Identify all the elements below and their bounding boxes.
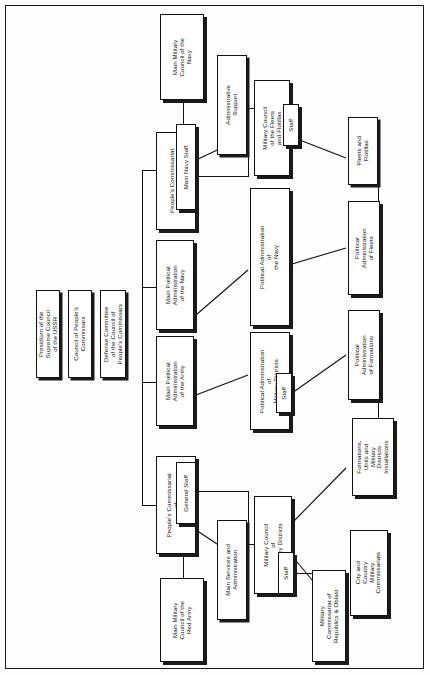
node-mc-fleets-label: Military Council of the Fleets and Floti… xyxy=(262,107,282,150)
connector-trunk-to-pc-defense xyxy=(142,505,156,506)
connector-paformations-to-formations xyxy=(378,400,379,418)
node-pa-fleets-label: Political Administration of Fleets xyxy=(354,228,374,268)
node-council-of-peoples-commissars[interactable]: Council of People's Commissars xyxy=(68,290,92,378)
node-defense-cttee-label: Defense Committee of the Council of Peop… xyxy=(103,304,123,365)
node-political-administration-fleets[interactable]: Political Administration of Fleets xyxy=(348,201,380,295)
connector-genstaff-to-mcmd-v xyxy=(248,491,249,544)
node-general-staff[interactable]: General Staff xyxy=(176,462,196,524)
node-main-navy-staff[interactable]: Main Navy Staff xyxy=(176,124,196,210)
node-staff-military-council-md[interactable]: Staff xyxy=(278,552,294,594)
node-political-administration-navy[interactable]: Political Administration of the Navy xyxy=(250,188,290,326)
node-fleets-label: Fleets and Flotillas xyxy=(356,136,370,165)
node-main-military-council-navy[interactable]: Main Military Council of the Navy xyxy=(160,14,204,100)
node-defense-committee[interactable]: Defense Committee of the Council of Peop… xyxy=(100,290,126,378)
node-formations-units-installations[interactable]: Formations, Units and Military Districts… xyxy=(352,418,394,496)
node-mpa-army-label: Main Political Administration of the Arm… xyxy=(165,361,185,401)
node-city-country-label: City and Country Military Commissariats xyxy=(355,552,382,594)
connector-trunk-to-mpa-navy xyxy=(142,287,156,288)
node-mmc-red-army-label: Main Military Council of the Red Army xyxy=(172,601,192,640)
node-main-navy-staff-label: Main Navy Staff xyxy=(183,145,190,189)
node-main-military-council-red-army[interactable]: Main Military Council of the Red Army xyxy=(160,578,204,662)
node-general-staff-label: General Staff xyxy=(183,475,190,512)
node-mmc-navy-label: Main Military Council of the Navy xyxy=(172,38,192,77)
node-political-administration-formations[interactable]: Political Administration of Formations xyxy=(348,310,380,400)
node-staff-fleets[interactable]: Staff xyxy=(283,104,299,146)
connector-trunk-to-mpa-army xyxy=(142,382,156,383)
connector-fleets-to-pafleets xyxy=(378,185,379,201)
node-main-services-and-administration[interactable]: Main Services and Administration xyxy=(217,520,247,620)
node-presidium-label: Presidium of the Supreme Council of the … xyxy=(38,310,58,358)
connector-navystaff-to-mcfleets-h xyxy=(196,176,248,177)
node-mil-comm-rep-label: Military Commissariat of Republics & Obl… xyxy=(319,589,339,643)
connector-trunk-vertical xyxy=(142,170,143,505)
node-pa-formations-label: Political Administration of Formations xyxy=(354,335,374,375)
node-staff-fleets-label: Staff xyxy=(288,119,295,132)
node-staff-political-admin-md[interactable]: Staff xyxy=(276,373,292,413)
node-fleets-and-flotillas[interactable]: Fleets and Flotillas xyxy=(348,117,378,185)
node-main-political-administration-army[interactable]: Main Political Administration of the Arm… xyxy=(156,336,194,426)
node-mpa-navy-label: Main Political Administration of the Nav… xyxy=(165,265,185,305)
node-admin-support-label: Administrative Support xyxy=(225,85,239,125)
connector-pcdefense-to-mmcredarmy xyxy=(183,554,184,580)
connector-trunk-to-pc-navy xyxy=(142,170,156,171)
node-city-country-military-commissariats[interactable]: City and Country Military Commissariats xyxy=(350,530,388,616)
node-military-commissariat-republics-oblast[interactable]: Military Commissariat of Republics & Obl… xyxy=(312,570,346,662)
node-staff-pamd-label: Staff xyxy=(281,387,288,400)
node-main-services-label: Main Services and Administration xyxy=(225,544,239,596)
node-council-cpc-label: Council of People's Commissars xyxy=(73,307,87,361)
node-administrative-support[interactable]: Administrative Support xyxy=(217,55,247,155)
node-formations-label: Formations, Units and Military Districts… xyxy=(356,440,390,473)
node-staff-mcmd-label: Staff xyxy=(283,567,290,580)
org-chart-canvas: Presidium of the Supreme Council of the … xyxy=(0,0,430,675)
node-main-political-administration-navy[interactable]: Main Political Administration of the Nav… xyxy=(156,240,194,330)
node-pa-navy-label: Political Administration of the Navy xyxy=(260,225,280,288)
node-presidium[interactable]: Presidium of the Supreme Council of the … xyxy=(36,290,60,378)
connector-navystaff-to-mcfleets-v xyxy=(248,108,249,177)
connector-genstaff-to-mcmd-h xyxy=(196,491,248,492)
